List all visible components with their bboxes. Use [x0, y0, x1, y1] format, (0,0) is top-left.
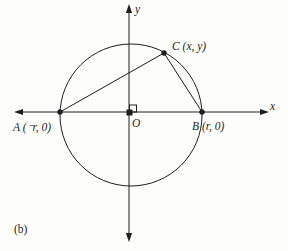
origin-label: O: [132, 117, 141, 129]
y-axis-bottom-arrow-icon: [126, 233, 132, 242]
figure-caption: (b): [14, 223, 28, 236]
y-axis-top-arrow-icon: [126, 4, 132, 13]
point-a-label: A (⁻r, 0): [12, 121, 51, 134]
y-axis-label: y: [134, 3, 141, 16]
chord-cb: [164, 53, 202, 112]
chord-ac: [60, 53, 164, 112]
x-axis-right-arrow-icon: [260, 109, 269, 115]
point-c-label: C (x, y): [172, 40, 206, 53]
x-axis-label: x: [269, 100, 276, 112]
point-c-dot: [161, 50, 166, 55]
circle-diagram: y x C (x, y) A (⁻r, 0) B (r, 0) O (b): [0, 0, 288, 251]
point-b-label: B (r, 0): [192, 120, 224, 133]
point-b-dot: [199, 109, 204, 114]
x-axis-left-arrow-icon: [14, 109, 23, 115]
figure-container: y x C (x, y) A (⁻r, 0) B (r, 0) O (b): [0, 0, 288, 251]
origin-point-dot: [127, 110, 133, 116]
point-a-dot: [57, 109, 62, 114]
